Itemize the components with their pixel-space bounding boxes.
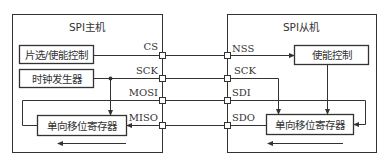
nss-port: [225, 53, 231, 59]
slave-sck-label: SCK: [234, 65, 257, 76]
master-sck-label: SCK: [136, 65, 159, 76]
mosi-port: [160, 98, 166, 104]
chip-select-label: 片选/使能控制: [25, 49, 89, 61]
master-title: SPI主机: [69, 21, 106, 33]
sck-junction-dot: [109, 77, 113, 81]
miso-label: MISO: [129, 112, 158, 123]
spi-diagram: SPI主机 SPI从机 片选/使能控制 时钟发生器 单向移位寄存器 使能控制 单…: [0, 0, 387, 165]
nss-label: NSS: [232, 43, 254, 54]
cs-label: CS: [143, 41, 158, 52]
slave-enable-label: 使能控制: [312, 49, 352, 61]
slave-sck-port: [225, 76, 231, 82]
mosi-label: MOSI: [129, 87, 158, 98]
sdi-port: [225, 98, 231, 104]
sdo-port: [225, 123, 231, 129]
sdi-label: SDI: [232, 87, 251, 98]
miso-port: [160, 123, 166, 129]
sdo-label: SDO: [232, 112, 255, 123]
master-sck-port: [160, 76, 166, 82]
slave-title: SPI从机: [283, 21, 320, 33]
slave-shift-register-label: 单向移位寄存器: [275, 119, 346, 131]
clock-generator-label: 时钟发生器: [32, 73, 83, 85]
cs-port: [160, 53, 166, 59]
master-shift-register-label: 单向移位寄存器: [47, 120, 118, 132]
